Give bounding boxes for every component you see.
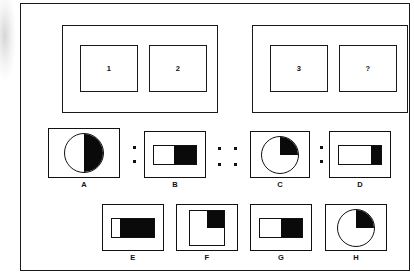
- rect-quarter-right-icon: [338, 145, 382, 165]
- fill-region: [174, 146, 196, 164]
- fill-region: [371, 146, 381, 164]
- option-label-f: F: [176, 253, 238, 262]
- rect-half-right-icon: [153, 145, 197, 165]
- premise-cell-question[interactable]: ?: [339, 45, 397, 92]
- premise-cell-1[interactable]: 1: [80, 45, 138, 92]
- proportion-dot-br: [234, 163, 237, 166]
- option-card-f[interactable]: [176, 204, 238, 251]
- circle-quadrant-upper-right-icon: [337, 209, 375, 247]
- analogy-card-b[interactable]: [144, 131, 206, 178]
- analogy-label-c: C: [250, 180, 310, 189]
- proportion-dot-bl: [218, 163, 221, 166]
- analogy-card-a-box: [48, 128, 120, 178]
- option-card-h[interactable]: [325, 204, 387, 251]
- proportion-dot-tr: [234, 147, 237, 150]
- separator-colon-cd: [320, 146, 323, 163]
- analogy-label-d: D: [329, 180, 391, 189]
- puzzle-page: 1 2 3 ? A: [0, 0, 414, 275]
- colon-dot-top: [320, 146, 323, 149]
- option-label-h: H: [325, 253, 387, 262]
- option-card-h-box: [325, 204, 387, 251]
- premise-cell-2[interactable]: 2: [149, 45, 207, 92]
- fill-region: [281, 219, 302, 237]
- option-label-e: E: [102, 253, 164, 262]
- premise-cell-3[interactable]: 3: [270, 45, 328, 92]
- separator-proportion: [218, 147, 237, 166]
- analogy-card-d[interactable]: [329, 131, 391, 178]
- analogy-card-d-box: [329, 131, 391, 178]
- fill-region: [356, 210, 374, 228]
- option-card-g-box: [250, 204, 312, 251]
- proportion-dot-tl: [218, 147, 221, 150]
- rect-half-right-icon: [259, 218, 303, 238]
- square-quadrant-upper-right-icon: [189, 210, 225, 246]
- colon-dot-bottom: [133, 160, 136, 163]
- premise-cell-2-label: 2: [176, 64, 180, 73]
- option-card-e-box: [102, 204, 164, 251]
- premise-cell-1-label: 1: [107, 64, 111, 73]
- fill-region: [207, 211, 224, 228]
- option-card-f-box: [176, 204, 238, 251]
- analogy-label-a: A: [48, 180, 120, 189]
- analogy-card-b-box: [144, 131, 206, 178]
- rect-mostly-filled-icon: [111, 218, 155, 238]
- premise-panel-left: 1 2: [62, 25, 218, 113]
- colon-dot-bottom: [320, 160, 323, 163]
- analogy-label-b: B: [144, 180, 206, 189]
- option-label-g: G: [250, 253, 312, 262]
- fill-region: [120, 219, 154, 237]
- fill-region: [280, 137, 298, 155]
- premise-panel-right: 3 ?: [252, 25, 408, 113]
- option-card-e[interactable]: [102, 204, 164, 251]
- option-card-g[interactable]: [250, 204, 312, 251]
- premise-cell-question-label: ?: [366, 64, 371, 73]
- scan-artifact: [0, 0, 16, 80]
- analogy-card-a[interactable]: [48, 128, 120, 178]
- premise-cell-3-label: 3: [297, 64, 301, 73]
- analogy-card-c[interactable]: [250, 131, 310, 178]
- circle-half-right-icon: [64, 133, 104, 173]
- separator-colon-ab: [133, 146, 136, 163]
- fill-region: [84, 134, 103, 172]
- puzzle-outer-frame: 1 2 3 ? A: [20, 3, 410, 271]
- circle-quadrant-upper-right-icon: [261, 136, 299, 174]
- colon-dot-top: [133, 146, 136, 149]
- analogy-card-c-box: [250, 131, 310, 178]
